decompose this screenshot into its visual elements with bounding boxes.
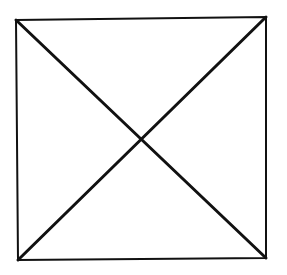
diagram-canvas	[0, 0, 287, 275]
square-with-diagonals-figure	[0, 0, 287, 275]
